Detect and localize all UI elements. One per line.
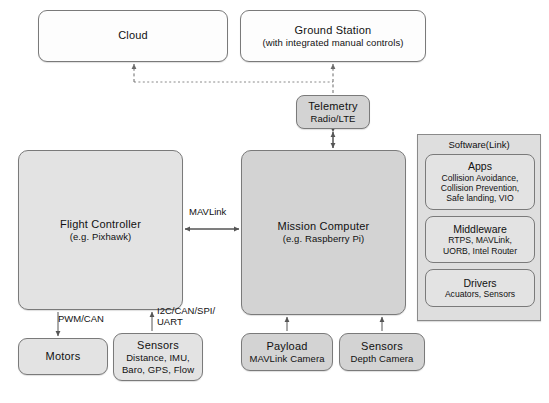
node-mission-computer-subtitle: (e.g. Raspberry Pi) — [283, 233, 365, 245]
node-motors-title: Motors — [46, 350, 81, 363]
software-link-panel: Software(Link) Apps Collision Avoidance,… — [417, 134, 541, 321]
node-telemetry[interactable]: Telemetry Radio/LTE — [296, 95, 370, 129]
node-cloud[interactable]: Cloud — [38, 10, 228, 62]
node-fc-sensors-subtitle-line2: Baro, GPS, Flow — [122, 364, 194, 376]
node-flight-controller-sensors[interactable]: Sensors Distance, IMU, Baro, GPS, Flow — [113, 333, 203, 381]
node-telemetry-title: Telemetry — [308, 100, 357, 113]
node-motors[interactable]: Motors — [18, 338, 108, 375]
node-mc-sensors-title: Sensors — [361, 340, 403, 353]
node-payload[interactable]: Payload MAVLink Camera — [241, 333, 333, 371]
software-drivers-title: Drivers — [463, 277, 496, 290]
software-box-drivers[interactable]: Drivers Acuators, Sensors — [425, 269, 535, 307]
node-mc-sensors-subtitle: Depth Camera — [351, 353, 414, 365]
node-payload-title: Payload — [266, 340, 307, 353]
node-mission-computer[interactable]: Mission Computer (e.g. Raspberry Pi) — [241, 150, 406, 315]
node-telemetry-subtitle: Radio/LTE — [310, 113, 355, 125]
architecture-diagram: Cloud Ground Station (with integrated ma… — [0, 0, 549, 403]
software-middleware-line1: RTPS, MAVLink, — [448, 235, 512, 245]
edge-label-pwm-can: PWM/CAN — [58, 313, 104, 324]
software-middleware-title: Middleware — [453, 223, 507, 236]
software-apps-line1: Collision Avoidance, — [442, 173, 519, 183]
node-flight-controller[interactable]: Flight Controller (e.g. Pixhawk) — [18, 150, 183, 310]
software-box-apps[interactable]: Apps Collision Avoidance, Collision Prev… — [425, 154, 535, 210]
node-mission-computer-sensors[interactable]: Sensors Depth Camera — [339, 333, 425, 371]
node-fc-sensors-subtitle-line1: Distance, IMU, — [126, 352, 190, 364]
node-ground-station-title: Ground Station — [295, 24, 372, 37]
software-apps-line3: Safe landing, VIO — [446, 193, 513, 203]
edge-label-i2c-line2: UART — [157, 316, 215, 327]
software-middleware-line2: UORB, Intel Router — [443, 246, 517, 256]
node-mission-computer-title: Mission Computer — [278, 220, 370, 233]
node-cloud-title: Cloud — [118, 29, 148, 42]
node-fc-sensors-title: Sensors — [137, 339, 179, 352]
node-ground-station-subtitle: (with integrated manual controls) — [262, 37, 403, 49]
edge-label-mavlink: MAVLink — [189, 206, 226, 217]
node-ground-station[interactable]: Ground Station (with integrated manual c… — [240, 10, 426, 62]
edge-label-i2c-line1: I2C/CAN/SPI/ — [157, 305, 215, 316]
software-apps-line2: Collision Prevention, — [441, 183, 519, 193]
software-drivers-line1: Acuators, Sensors — [445, 289, 515, 299]
software-apps-title: Apps — [468, 160, 492, 173]
node-flight-controller-subtitle: (e.g. Pixhawk) — [70, 231, 132, 243]
node-payload-subtitle: MAVLink Camera — [249, 353, 324, 365]
software-panel-label: Software(Link) — [418, 139, 540, 150]
node-flight-controller-title: Flight Controller — [60, 218, 141, 231]
edge-label-i2c-can-spi-uart: I2C/CAN/SPI/ UART — [157, 305, 215, 327]
software-box-middleware[interactable]: Middleware RTPS, MAVLink, UORB, Intel Ro… — [425, 216, 535, 263]
